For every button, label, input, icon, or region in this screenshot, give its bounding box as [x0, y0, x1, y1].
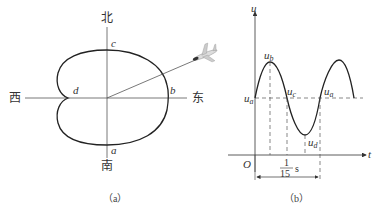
ud-label: ud [308, 136, 319, 150]
point-d-label: d [73, 84, 79, 96]
west-label: 西 [9, 91, 21, 105]
east-label: 东 [192, 91, 204, 105]
t-axis-label: t [368, 148, 372, 160]
point-c-label: c [111, 37, 116, 49]
north-label: 北 [101, 11, 113, 25]
period-numerator: 1 [284, 157, 289, 168]
ua-right-label: ua [324, 85, 334, 99]
origin-label: O [243, 158, 251, 170]
panel-b: u t O ua ub uc ud ua 1 15 s （b） [228, 2, 372, 204]
uc-label: uc [287, 85, 297, 99]
caption-b: （b） [284, 193, 309, 204]
period-value: 1 15 s [280, 157, 299, 179]
point-a-label: a [111, 144, 117, 156]
point-b-label: b [170, 84, 176, 96]
period-denominator: 15 [280, 168, 290, 179]
u-axis-label: u [251, 2, 257, 14]
caption-a: （a） [103, 193, 127, 204]
diagram-canvas: 北 南 西 东 c a b d （a） u t O [0, 0, 378, 209]
ub-label: ub [264, 49, 274, 63]
panel-a: 北 南 西 东 c a b d （a） [9, 11, 221, 204]
radiation-pattern-curve [57, 50, 168, 145]
ua-left-label: ua [244, 92, 254, 106]
airplane-icon [189, 40, 221, 68]
period-unit: s [295, 163, 299, 174]
south-label: 南 [101, 158, 113, 173]
